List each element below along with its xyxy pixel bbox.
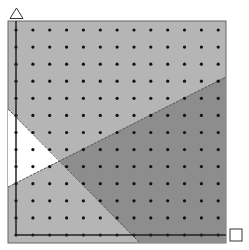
grid-dot [132,182,135,185]
grid-dot [82,46,85,49]
grid-dot [99,114,102,117]
triangle-icon [10,8,23,19]
grid-dot [200,199,203,202]
grid-dot [31,114,34,117]
grid-dot [31,80,34,83]
grid-dot [116,114,119,117]
grid-dot [31,28,34,31]
grid-dot [132,97,135,100]
grid-dot [183,165,186,168]
grid-dot [99,46,102,49]
grid-dot [200,97,203,100]
grid-dot [82,182,85,185]
grid-dot [31,165,34,168]
grid-dot [183,46,186,49]
grid-dot [65,80,68,83]
grid-dot [149,114,152,117]
grid-dot [217,165,220,168]
grid-dot [217,199,220,202]
grid-dot [200,131,203,134]
grid-dot [48,114,51,117]
grid-dot [65,131,68,134]
grid-dot [82,199,85,202]
grid-dot [149,28,152,31]
grid-dot [116,131,119,134]
grid-dot [183,63,186,66]
grid-dot [31,199,34,202]
grid-dot [99,216,102,219]
grid-dot [48,165,51,168]
grid-dot [149,182,152,185]
grid-dot [166,182,169,185]
grid-dot [65,63,68,66]
grid-dot [116,63,119,66]
grid-dot [217,148,220,151]
grid-dot [166,216,169,219]
grid-dot [99,80,102,83]
grid-dot [132,216,135,219]
grid-dot [116,28,119,31]
grid-dot [200,148,203,151]
grid-dot [31,97,34,100]
grid-dot [217,131,220,134]
grid-dot [31,182,34,185]
grid-dot [116,165,119,168]
grid-dot [99,199,102,202]
grid-dot [99,165,102,168]
grid-dot [132,28,135,31]
grid-dot [149,131,152,134]
grid-dot [217,80,220,83]
grid-dot [48,199,51,202]
grid-dot [116,216,119,219]
grid-dot [82,63,85,66]
grid-dot [48,216,51,219]
grid-dot [200,165,203,168]
grid-dot [217,114,220,117]
grid-dot [166,199,169,202]
grid-dot [183,28,186,31]
grid-dot [82,80,85,83]
grid-dot [166,148,169,151]
grid-dot [31,63,34,66]
grid-dot [183,97,186,100]
square-icon [230,229,242,241]
grid-dot [116,80,119,83]
grid-dot [99,131,102,134]
grid-dot [99,63,102,66]
grid-dot [183,182,186,185]
grid-dot [166,28,169,31]
grid-dot [48,46,51,49]
grid-dot [149,63,152,66]
grid-dot [48,28,51,31]
grid-dot [149,165,152,168]
grid-dot [65,148,68,151]
grid-dot [200,28,203,31]
grid-dot [166,46,169,49]
grid-dot [116,148,119,151]
grid-dot [82,28,85,31]
grid-dot [82,97,85,100]
grid-dot [82,148,85,151]
grid-dot [116,182,119,185]
grid-dot [82,165,85,168]
grid-dot [116,46,119,49]
grid-dot [183,80,186,83]
grid-dot [116,97,119,100]
grid-dot [65,114,68,117]
grid-dot [65,182,68,185]
grid-dot [48,97,51,100]
grid-dot [99,182,102,185]
grid-dot [217,182,220,185]
grid-dot [149,97,152,100]
grid-dot [200,80,203,83]
grid-dot [149,148,152,151]
grid-dot [149,216,152,219]
grid-dot [31,131,34,134]
grid-dot [132,46,135,49]
grid-dot [31,46,34,49]
grid-dot [183,216,186,219]
grid-dot [31,148,34,151]
grid-dot [217,63,220,66]
grid-dot [166,80,169,83]
grid-dot [183,131,186,134]
